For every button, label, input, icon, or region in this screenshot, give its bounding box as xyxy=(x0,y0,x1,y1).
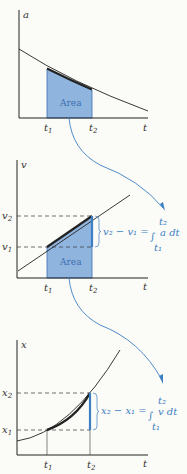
t1-label: t1 xyxy=(44,459,53,472)
integral-lower: t₁ xyxy=(152,421,160,432)
integrand: v dt xyxy=(158,406,178,417)
integral-sign: ∫ xyxy=(150,231,155,242)
x-axis-label: t xyxy=(143,122,148,133)
area-label: Area xyxy=(59,98,82,108)
y-axis-label: a xyxy=(23,9,29,20)
panel-velocity: v t v2 v1 t1 t2 Area v₂ − v₁ = ∫ t₂ t₁ a… xyxy=(2,159,181,295)
area-label: Area xyxy=(59,257,82,267)
arrow-2 xyxy=(69,278,162,380)
t1-label: t1 xyxy=(44,282,53,295)
t1-label: t1 xyxy=(44,122,53,135)
brace xyxy=(93,393,99,430)
equation-lhs: v₂ − v₁ = xyxy=(103,226,149,237)
kinematics-diagram: a t t1 t2 Area v t v2 v1 t1 t2 Area v₂ −… xyxy=(0,0,187,474)
v1-label: v1 xyxy=(2,241,12,254)
panel-acceleration: a t t1 t2 Area xyxy=(19,9,148,135)
panel-position: x t x2 x1 t1 t2 x₂ − x₁ = ∫ t₂ t₁ v dt xyxy=(2,339,178,472)
y-axis-label: v xyxy=(21,159,27,170)
x-axis-label: t xyxy=(143,281,148,292)
arrowhead-1 xyxy=(160,202,165,211)
integral-upper: t₂ xyxy=(159,216,167,227)
x-axis-label: t xyxy=(143,458,148,469)
x1-label: x1 xyxy=(2,424,12,437)
v2-label: v2 xyxy=(2,210,13,223)
integral-sign: ∫ xyxy=(148,410,153,421)
brace xyxy=(95,216,101,247)
integral-upper: t₂ xyxy=(158,395,166,406)
y-axis-label: x xyxy=(21,339,27,350)
curve xyxy=(17,350,120,441)
integral-lower: t₁ xyxy=(154,242,162,253)
integrand: a dt xyxy=(160,227,181,238)
area-fill xyxy=(47,69,92,118)
t2-label: t2 xyxy=(89,282,98,295)
arrow-1 xyxy=(69,118,163,208)
t2-label: t2 xyxy=(89,122,98,135)
t2-label: t2 xyxy=(87,459,96,472)
x2-label: x2 xyxy=(2,387,13,400)
curve-highlight xyxy=(47,393,90,430)
equation-lhs: x₂ − x₁ = xyxy=(101,405,147,416)
